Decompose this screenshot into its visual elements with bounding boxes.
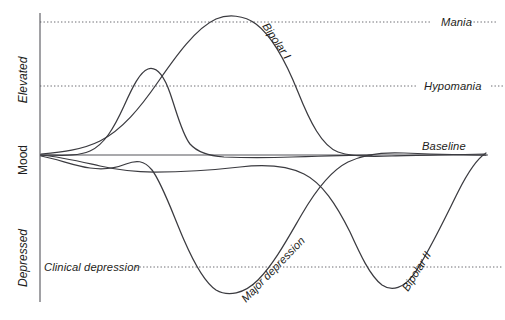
y-axis-label-elevated: Elevated xyxy=(16,56,30,103)
label-mania: Mania xyxy=(441,16,472,28)
chart-canvas: Mania Hypomania Baseline Clinical depres… xyxy=(0,0,505,320)
curve-label-bipolar-ii: Bipolar II xyxy=(400,249,434,293)
curve-label-major-depression: Major depression xyxy=(239,234,307,304)
y-axis-label-depressed: Depressed xyxy=(16,229,30,287)
label-baseline: Baseline xyxy=(422,140,466,152)
label-clinical-depression: Clinical depression xyxy=(44,261,140,273)
curve-label-bipolar-i: Bipolar I xyxy=(260,20,293,61)
label-hypomania: Hypomania xyxy=(424,80,482,92)
mood-spectrum-chart: Mania Hypomania Baseline Clinical depres… xyxy=(0,0,505,320)
y-axis-label-mood: Mood xyxy=(16,145,30,175)
